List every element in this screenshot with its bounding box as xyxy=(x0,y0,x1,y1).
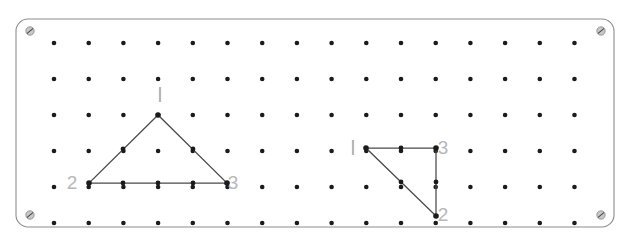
peg xyxy=(538,149,543,154)
geoboard-canvas: 2332 xyxy=(0,0,630,246)
peg xyxy=(329,149,334,154)
peg xyxy=(121,41,126,46)
band-peg xyxy=(121,181,126,186)
peg xyxy=(225,221,230,226)
peg xyxy=(52,77,57,82)
peg xyxy=(86,113,91,118)
peg xyxy=(86,149,91,154)
peg xyxy=(121,77,126,82)
right-triangle-label-2: 2 xyxy=(438,204,449,225)
peg xyxy=(295,77,300,82)
band-peg xyxy=(121,147,126,152)
geoboard-plate xyxy=(16,19,614,227)
peg xyxy=(191,221,196,226)
peg xyxy=(52,113,57,118)
peg xyxy=(295,221,300,226)
peg xyxy=(433,41,438,46)
peg xyxy=(329,113,334,118)
peg xyxy=(538,41,543,46)
peg xyxy=(433,77,438,82)
peg xyxy=(399,41,404,46)
peg xyxy=(86,41,91,46)
peg xyxy=(329,185,334,190)
peg xyxy=(364,77,369,82)
peg xyxy=(329,221,334,226)
right-triangle-vertex-1 xyxy=(363,145,369,151)
peg xyxy=(572,149,577,154)
peg xyxy=(121,221,126,226)
peg xyxy=(225,77,230,82)
peg xyxy=(572,77,577,82)
peg xyxy=(468,149,473,154)
peg xyxy=(503,149,508,154)
peg xyxy=(191,113,196,118)
peg xyxy=(52,221,57,226)
peg xyxy=(572,185,577,190)
peg xyxy=(503,185,508,190)
band-peg xyxy=(399,180,404,185)
isosceles-triangle-vertex-2 xyxy=(86,180,92,186)
peg xyxy=(295,149,300,154)
isosceles-triangle-vertex-1 xyxy=(155,112,161,118)
peg xyxy=(503,77,508,82)
peg xyxy=(156,77,161,82)
peg xyxy=(191,41,196,46)
peg xyxy=(468,221,473,226)
peg xyxy=(538,221,543,226)
band-peg xyxy=(191,181,196,186)
peg xyxy=(399,113,404,118)
peg xyxy=(364,41,369,46)
peg xyxy=(364,185,369,190)
peg xyxy=(572,113,577,118)
peg xyxy=(538,113,543,118)
band-peg xyxy=(156,181,161,186)
peg xyxy=(329,41,334,46)
peg xyxy=(121,113,126,118)
band-peg xyxy=(399,146,404,151)
peg xyxy=(260,41,265,46)
peg xyxy=(225,113,230,118)
isosceles-triangle-label-2: 2 xyxy=(67,172,78,193)
peg xyxy=(295,41,300,46)
peg xyxy=(329,77,334,82)
peg xyxy=(503,221,508,226)
peg xyxy=(468,41,473,46)
peg xyxy=(538,77,543,82)
isosceles-triangle-label-3: 3 xyxy=(228,172,239,193)
peg xyxy=(433,113,438,118)
peg xyxy=(52,149,57,154)
peg xyxy=(225,149,230,154)
peg xyxy=(295,185,300,190)
peg xyxy=(468,77,473,82)
peg xyxy=(52,41,57,46)
peg xyxy=(503,113,508,118)
peg xyxy=(156,41,161,46)
band-peg xyxy=(191,147,196,152)
peg xyxy=(572,221,577,226)
peg xyxy=(538,185,543,190)
peg xyxy=(468,185,473,190)
peg xyxy=(364,113,369,118)
band-peg xyxy=(434,180,439,185)
peg xyxy=(260,185,265,190)
peg xyxy=(86,77,91,82)
peg xyxy=(52,185,57,190)
peg xyxy=(156,221,161,226)
peg xyxy=(86,221,91,226)
peg xyxy=(260,221,265,226)
peg xyxy=(121,185,126,190)
peg xyxy=(503,41,508,46)
peg xyxy=(225,41,230,46)
peg xyxy=(260,113,265,118)
peg xyxy=(572,41,577,46)
peg xyxy=(295,113,300,118)
geoboard-figure: 2332 xyxy=(0,0,630,246)
peg xyxy=(191,77,196,82)
peg xyxy=(399,77,404,82)
right-triangle-label-3: 3 xyxy=(438,137,449,158)
peg xyxy=(260,149,265,154)
peg xyxy=(156,149,161,154)
peg xyxy=(468,113,473,118)
peg xyxy=(399,221,404,226)
peg xyxy=(364,221,369,226)
